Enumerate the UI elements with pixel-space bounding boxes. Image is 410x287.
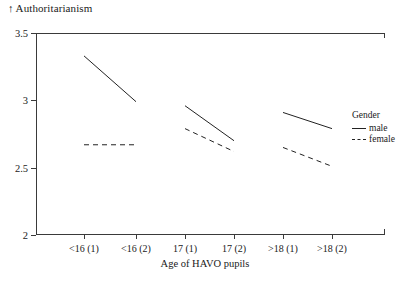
y-axis-title-text: Authoritarianism: [16, 2, 93, 14]
legend-item-male: male: [352, 123, 395, 135]
x-tick-label: >18 (1): [268, 243, 298, 254]
legend-items: malefemale: [352, 123, 395, 146]
x-tick-label: 17 (1): [173, 243, 197, 254]
legend-item-female: female: [352, 134, 395, 146]
x-tick-label: >18 (2): [317, 243, 347, 254]
y-tick-label: 3: [2, 95, 28, 106]
legend-item-label: female: [369, 134, 395, 146]
legend-title: Gender: [352, 110, 395, 122]
y-tick-label: 2: [2, 230, 28, 241]
legend-solid-line-icon: [352, 125, 366, 132]
y-tick-label: 2.5: [2, 162, 28, 173]
plot-area: 3.532.52 <16 (1)<16 (2)17 (1)17 (2)>18 (…: [36, 33, 385, 235]
series-line-male: [283, 112, 332, 128]
series-line-male: [185, 106, 234, 141]
x-tick-label: 17 (2): [222, 243, 246, 254]
y-axis-arrow-icon: ↑: [8, 2, 14, 14]
y-axis-title: ↑Authoritarianism: [8, 2, 92, 14]
legend-dashed-line-icon: [352, 136, 366, 143]
legend-item-label: male: [369, 123, 387, 135]
series-line-female: [283, 147, 332, 166]
series-lines: [36, 33, 385, 235]
chart-figure: ↑Authoritarianism 3.532.52 <16 (1)<16 (2…: [0, 0, 410, 287]
legend: Gender malefemale: [352, 110, 395, 146]
x-tick-label: <16 (2): [121, 243, 151, 254]
series-line-male: [84, 56, 136, 102]
x-axis-title: Age of HAVO pupils: [0, 258, 410, 269]
series-line-female: [185, 129, 234, 152]
y-tick-label: 3.5: [2, 28, 28, 39]
x-tick-label: <16 (1): [69, 243, 99, 254]
y-tick-mark: [31, 235, 36, 236]
